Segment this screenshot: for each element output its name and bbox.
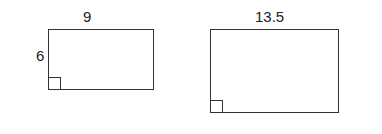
rectangle-large — [210, 29, 339, 113]
rectangle-small — [48, 29, 154, 90]
right-angle-marker — [211, 100, 223, 112]
rect1-width-label: 9 — [83, 8, 91, 25]
right-angle-marker — [49, 77, 61, 89]
rect2-width-label: 13.5 — [255, 8, 284, 25]
rect1-height-label: 6 — [36, 47, 44, 64]
